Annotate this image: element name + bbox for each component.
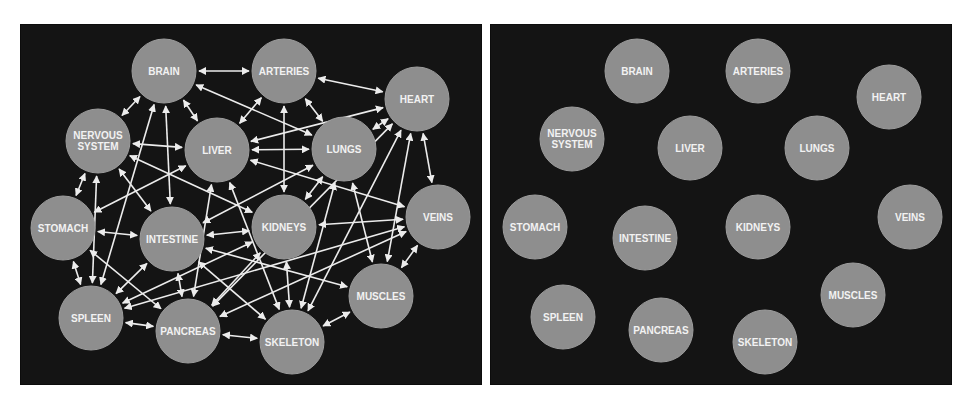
node-spleen: SPLEEN [531, 285, 595, 349]
node-label: VEINS [423, 212, 453, 223]
node-arteries: ARTERIES [726, 39, 790, 103]
edge-brain-nervous [122, 96, 140, 115]
node-lungs: LUNGS [312, 117, 376, 181]
node-kidneys: KIDNEYS [726, 195, 790, 259]
node-label: BRAIN [148, 66, 180, 77]
node-label: PANCREAS [633, 325, 689, 336]
node-arteries: ARTERIES [252, 39, 316, 103]
connected-organ-network-panel: BRAINARTERIESHEARTNERVOUSSYSTEMLIVERLUNG… [20, 24, 482, 385]
node-label: ARTERIES [259, 66, 310, 77]
node-label: SPLEEN [71, 313, 111, 324]
node-label: LIVER [202, 145, 232, 156]
node-label: HEART [872, 92, 906, 103]
node-muscles: MUSCLES [349, 264, 413, 328]
node-label: MUSCLES [357, 291, 406, 302]
edge-arteries-liver [240, 98, 262, 124]
node-brain: BRAIN [605, 39, 669, 103]
node-label: ARTERIES [733, 66, 784, 77]
node-label: STOMACH [510, 222, 560, 233]
edge-heart-veins [423, 133, 432, 182]
node-nervous: NERVOUSSYSTEM [540, 107, 604, 171]
edge-nervous-stomach [76, 173, 85, 195]
node-label: MUSCLES [829, 290, 878, 301]
edge-intestine-spleen [116, 263, 147, 293]
node-nervous: NERVOUSSYSTEM [66, 109, 130, 173]
disconnected-organ-nodes-panel: BRAINARTERIESHEARTNERVOUSSYSTEMLIVERLUNG… [490, 24, 952, 385]
edge-stomach-spleen [73, 261, 80, 284]
edge-arteries-lungs [305, 99, 322, 122]
node-label: NERVOUS [73, 130, 123, 141]
node-veins: VEINS [406, 185, 470, 249]
node-label: INTESTINE [146, 234, 199, 245]
node-label: SYSTEM [551, 139, 592, 150]
edge-nervous-liver [133, 144, 182, 148]
edge-brain-intestine [166, 106, 171, 204]
edge-muscles-skeleton [323, 312, 350, 326]
node-label: SKELETON [738, 337, 792, 348]
edge-heart-lungs [373, 119, 388, 129]
edge-arteries-heart [318, 78, 383, 92]
node-label: LIVER [675, 143, 705, 154]
node-stomach: STOMACH [503, 195, 567, 259]
node-muscles: MUSCLES [821, 263, 885, 327]
node-skeleton: SKELETON [733, 310, 797, 374]
node-label: KIDNEYS [736, 222, 781, 233]
node-heart: HEART [385, 67, 449, 131]
edge-pancreas-skeleton [223, 335, 257, 339]
node-label: SKELETON [265, 337, 319, 348]
node-intestine: INTESTINE [140, 207, 204, 271]
node-skeleton: SKELETON [260, 310, 324, 374]
organ-network-graph-disconnected: BRAINARTERIESHEARTNERVOUSSYSTEMLIVERLUNG… [490, 24, 952, 385]
node-spleen: SPLEEN [59, 286, 123, 350]
edge-veins-muscles [401, 245, 417, 267]
node-label: VEINS [895, 212, 925, 223]
node-label: BRAIN [621, 66, 653, 77]
node-stomach: STOMACH [31, 196, 95, 260]
node-label: HEART [400, 94, 434, 105]
organ-network-graph-connected: BRAINARTERIESHEARTNERVOUSSYSTEMLIVERLUNG… [20, 24, 482, 385]
edge-brain-liver [183, 100, 197, 121]
node-label: SYSTEM [77, 141, 118, 152]
node-pancreas: PANCREAS [156, 299, 220, 363]
node-intestine: INTESTINE [613, 206, 677, 270]
node-kidneys: KIDNEYS [252, 195, 316, 259]
node-veins: VEINS [878, 185, 942, 249]
edge-heart-muscles [387, 133, 410, 261]
node-heart: HEART [857, 65, 921, 129]
node-label: LUNGS [327, 144, 362, 155]
node-label: KIDNEYS [262, 222, 307, 233]
node-label: NERVOUS [547, 128, 597, 139]
node-label: SPLEEN [543, 312, 583, 323]
node-label: STOMACH [38, 223, 88, 234]
node-label: INTESTINE [619, 233, 672, 244]
node-brain: BRAIN [132, 39, 196, 103]
edge-liver-stomach [94, 166, 186, 212]
node-liver: LIVER [185, 118, 249, 182]
node-label: PANCREAS [160, 326, 216, 337]
node-liver: LIVER [658, 116, 722, 180]
edge-intestine-kidneys [207, 231, 249, 236]
node-lungs: LUNGS [785, 116, 849, 180]
edge-kidneys-veins [319, 219, 403, 224]
edge-stomach-intestine [98, 232, 137, 236]
edge-spleen-pancreas [126, 323, 154, 327]
node-label: LUNGS [800, 143, 835, 154]
node-pancreas: PANCREAS [629, 298, 693, 362]
